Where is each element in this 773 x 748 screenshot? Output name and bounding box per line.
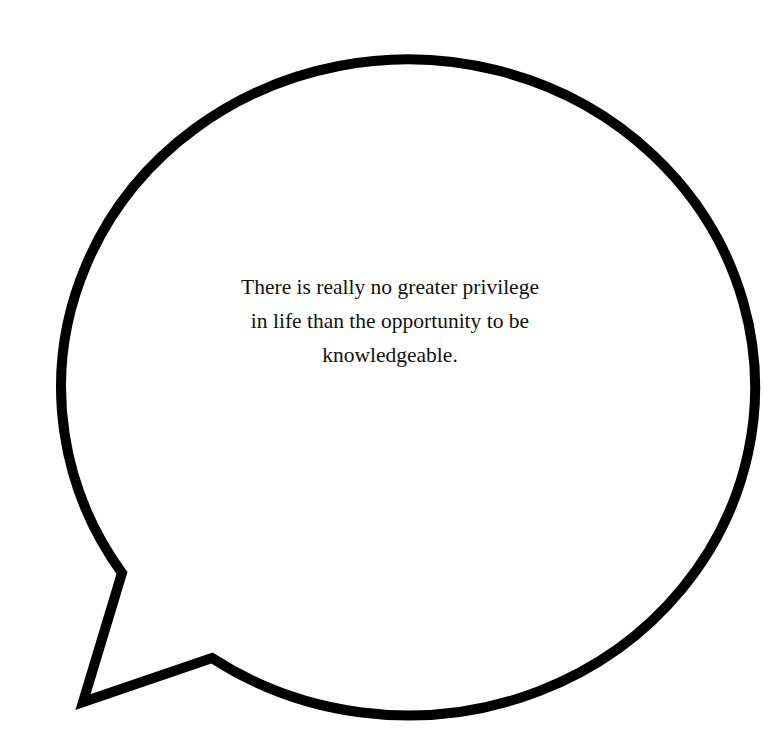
speech-bubble-icon: [0, 0, 773, 748]
quote-line-2: in life than the opportunity to be: [200, 304, 580, 338]
quote-line-1: There is really no greater privilege: [200, 270, 580, 304]
speech-bubble-outline: [61, 59, 755, 715]
quote-line-3: knowledgeable.: [200, 338, 580, 372]
quote-text: There is really no greater privilege in …: [200, 270, 580, 372]
